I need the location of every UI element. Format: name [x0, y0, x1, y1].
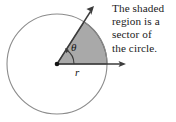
caption-line-1: The shaded — [112, 2, 176, 15]
diagonal-ray-arrowhead — [86, 6, 94, 15]
caption-text-block: The shaded region is a sector of the cir… — [112, 2, 176, 55]
caption-line-4: the circle. — [112, 42, 176, 55]
radius-label: r — [75, 66, 79, 78]
caption-line-2: region is a — [112, 15, 176, 28]
geometry-figure: θ r The shaded region is a sector of the… — [0, 0, 176, 122]
theta-label: θ — [71, 41, 76, 53]
shaded-sector — [57, 22, 107, 64]
caption-line-3: sector of — [112, 28, 176, 41]
center-point — [55, 62, 60, 67]
